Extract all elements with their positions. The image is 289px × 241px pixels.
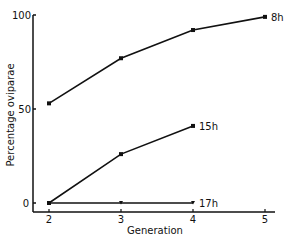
data-point bbox=[47, 101, 51, 105]
x-axis-label: Generation bbox=[127, 225, 183, 236]
y-axis-label: Percentage oviparae bbox=[5, 63, 16, 166]
x-tick-3: 3 bbox=[118, 214, 124, 225]
data-point bbox=[191, 124, 195, 128]
series-8h: 8h bbox=[47, 12, 284, 105]
x-tick-4: 4 bbox=[190, 214, 196, 225]
data-point bbox=[119, 152, 123, 156]
y-axis: 100 50 0 Percentage oviparae bbox=[5, 10, 36, 212]
x-axis: 2 3 4 5 Generation bbox=[33, 209, 275, 236]
series-label: 8h bbox=[271, 12, 284, 23]
data-point bbox=[263, 15, 267, 19]
series-label: 15h bbox=[199, 121, 218, 132]
series-label: 17h bbox=[199, 198, 218, 209]
y-tick-0: 0 bbox=[23, 198, 29, 209]
y-tick-100: 100 bbox=[12, 10, 31, 21]
y-tick-50: 50 bbox=[18, 104, 31, 115]
series-17h: 17h bbox=[47, 198, 218, 209]
data-point bbox=[119, 56, 123, 60]
chart: 100 50 0 Percentage oviparae 2 3 4 5 Gen… bbox=[0, 0, 289, 241]
x-tick-2: 2 bbox=[46, 214, 52, 225]
series-layer: 8h15h17h bbox=[47, 12, 284, 209]
data-point bbox=[191, 28, 195, 32]
x-tick-5: 5 bbox=[262, 214, 268, 225]
series-15h: 15h bbox=[47, 121, 218, 205]
